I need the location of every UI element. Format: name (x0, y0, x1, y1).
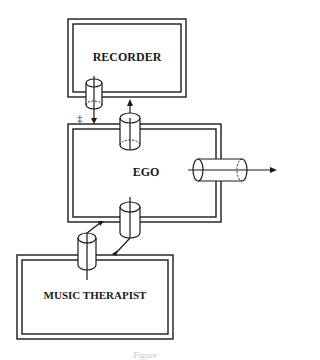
figure-caption: Figure (133, 350, 157, 360)
channel-ego-to-recorder (120, 99, 140, 150)
channel-music-therapist-to-ego (78, 221, 104, 280)
ego-label: EGO (133, 165, 160, 180)
channel-ego-to-outside (188, 159, 277, 181)
bidirectional-marker: ‡ (77, 112, 83, 124)
music-therapist-label: MUSIC THERAPIST (44, 289, 147, 301)
channel-recorder-to-ego (86, 76, 102, 124)
channel-ego-to-music-therapist (112, 197, 140, 256)
recorder-label: RECORDER (93, 50, 162, 65)
